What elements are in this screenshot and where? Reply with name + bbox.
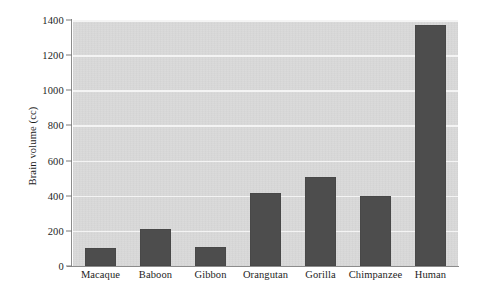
y-axis-tick-label: 1400 <box>30 15 64 26</box>
y-axis-tick-mark <box>66 20 72 21</box>
x-axis-tick-label: Macaque <box>81 269 120 280</box>
bar-series <box>73 20 458 266</box>
brain-volume-bar-chart: Brain volume (cc) 0200400600800100012001… <box>0 0 477 292</box>
x-axis-tick-label: Chimpanzee <box>349 269 402 280</box>
x-axis-tick-label: Gorilla <box>305 269 335 280</box>
y-axis-tick-label: 1000 <box>30 85 64 96</box>
y-axis-tick-label: 0 <box>30 261 64 272</box>
y-axis-tick-label: 1200 <box>30 50 64 61</box>
y-axis-tick-mark <box>66 160 72 161</box>
x-axis-tick-label: Baboon <box>139 269 172 280</box>
bar <box>250 193 281 266</box>
x-axis-tick-label: Human <box>415 269 446 280</box>
bar <box>360 196 391 266</box>
bar <box>305 177 336 266</box>
y-axis-tick-mark <box>66 90 72 91</box>
x-axis-tick-label: Gibbon <box>194 269 226 280</box>
y-axis-tick-label: 600 <box>30 155 64 166</box>
bar <box>415 25 446 266</box>
y-axis-tick-mark <box>66 230 72 231</box>
y-axis-tick-label: 200 <box>30 225 64 236</box>
y-axis-tick-label: 400 <box>30 190 64 201</box>
bar <box>140 229 171 266</box>
y-axis-tick-mark <box>66 266 72 267</box>
x-axis-line <box>67 266 459 267</box>
x-axis-tick-label: Orangutan <box>243 269 288 280</box>
x-axis-tick-label-group: MacaqueBaboonGibbonOrangutanGorillaChimp… <box>73 269 458 289</box>
y-axis-tick-mark <box>66 55 72 56</box>
y-axis-tick-label: 800 <box>30 120 64 131</box>
y-axis-tick-label-group: 0200400600800100012001400 <box>30 20 64 266</box>
bar <box>195 247 226 266</box>
y-axis-tick-mark <box>66 125 72 126</box>
y-axis-tick-mark <box>66 195 72 196</box>
plot-area <box>73 20 458 266</box>
bar <box>85 248 116 266</box>
